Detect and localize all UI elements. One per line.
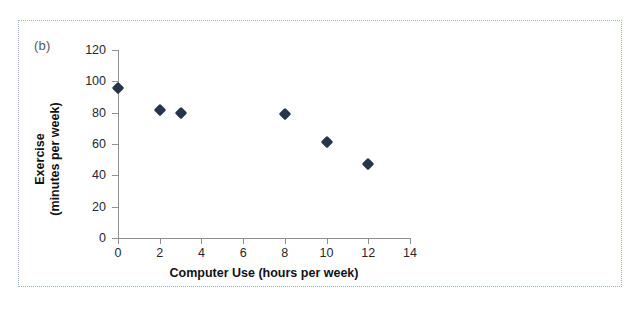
y-tick-label: 80 — [66, 106, 106, 120]
y-tick-label: 120 — [66, 43, 106, 57]
x-tick-mark — [410, 238, 411, 244]
y-tick-mark — [112, 113, 118, 114]
x-tick-label: 8 — [270, 246, 300, 260]
y-tick-mark — [112, 175, 118, 176]
y-tick-label: 40 — [66, 168, 106, 182]
y-tick-label: 20 — [66, 200, 106, 214]
y-tick-mark — [112, 207, 118, 208]
x-tick-mark — [327, 238, 328, 244]
data-point-marker — [320, 136, 333, 149]
data-point-marker — [278, 108, 291, 121]
x-tick-mark — [285, 238, 286, 244]
scatter-plot: 020406080100120 02468101214 Computer Use… — [0, 0, 635, 309]
data-point-marker — [362, 158, 375, 171]
x-tick-label: 0 — [103, 246, 133, 260]
data-point-marker — [174, 106, 187, 119]
x-tick-label: 2 — [145, 246, 175, 260]
x-axis-title: Computer Use (hours per week) — [118, 266, 410, 280]
x-tick-label: 6 — [228, 246, 258, 260]
data-point-marker — [112, 81, 125, 94]
y-tick-label: 0 — [66, 231, 106, 245]
x-tick-mark — [201, 238, 202, 244]
y-tick-mark — [112, 50, 118, 51]
y-axis-line — [118, 50, 119, 239]
x-tick-label: 4 — [186, 246, 216, 260]
x-axis-line — [118, 238, 410, 239]
x-tick-mark — [243, 238, 244, 244]
x-tick-mark — [118, 238, 119, 244]
y-axis-title: Exercise (minutes per week) — [33, 59, 63, 259]
x-tick-label: 12 — [353, 246, 383, 260]
y-axis-title-line-1: Exercise — [33, 59, 48, 259]
y-tick-mark — [112, 144, 118, 145]
x-tick-mark — [160, 238, 161, 244]
x-tick-label: 14 — [395, 246, 425, 260]
y-axis-title-line-2: (minutes per week) — [48, 59, 63, 259]
y-tick-label: 100 — [66, 74, 106, 88]
x-tick-label: 10 — [312, 246, 342, 260]
x-tick-mark — [368, 238, 369, 244]
data-point-marker — [153, 103, 166, 116]
y-tick-label: 60 — [66, 137, 106, 151]
